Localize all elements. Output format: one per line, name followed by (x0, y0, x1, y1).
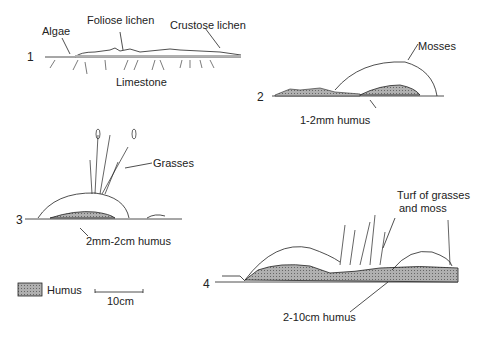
stage-4-number: 4 (203, 277, 210, 291)
stage-4-drawing (215, 215, 458, 312)
label-humus-stage-4: 2-10cm humus (283, 311, 356, 323)
label-turf-line2: and moss (399, 202, 447, 214)
label-grasses: Grasses (153, 157, 194, 169)
grass-turf (340, 215, 450, 265)
scale-bar-label: 10cm (107, 295, 134, 307)
legend-humus-swatch (18, 283, 42, 296)
label-turf-line1: Turf of grasses (397, 189, 470, 201)
stage-1-drawing (45, 28, 241, 74)
label-mosses: Mosses (418, 40, 456, 52)
stage-3-number: 3 (16, 213, 23, 227)
stage-3-drawing (25, 129, 182, 236)
label-humus-stage-2: 1-2mm humus (300, 114, 370, 126)
label-humus-stage-3: 2mm-2cm humus (86, 235, 171, 247)
label-foliose-lichen: Foliose lichen (87, 14, 154, 26)
stage-2-number: 2 (257, 90, 264, 104)
stage-1-number: 1 (27, 50, 34, 64)
label-algae: Algae (42, 25, 70, 37)
legend-humus-label: Humus (47, 284, 82, 296)
grass-tuft (90, 129, 136, 194)
label-limestone: Limestone (116, 76, 167, 88)
scale-bar (95, 289, 143, 293)
stage-2-drawing (272, 44, 444, 108)
label-crustose-lichen: Crustose lichen (170, 19, 246, 31)
